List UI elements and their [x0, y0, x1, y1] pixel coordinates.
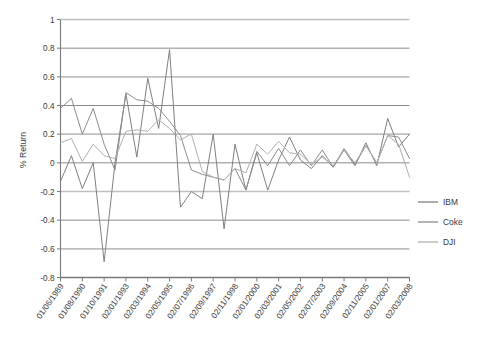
- y-tick-label: -0.4: [40, 216, 55, 225]
- y-tick-label: 1: [50, 16, 55, 25]
- chart-container: 10.80.60.40.20-0.2-0.4-0.6-0.8 01/06/198…: [0, 0, 491, 344]
- legend-label-dji: DJI: [443, 237, 456, 247]
- y-axis-title-text: % Return: [18, 132, 28, 168]
- y-tick-label: 0: [50, 159, 55, 168]
- chart-legend: IBMCokeDJI: [418, 197, 463, 247]
- x-axis: [61, 278, 410, 282]
- legend-label-coke: Coke: [443, 217, 463, 227]
- series-line-coke: [61, 93, 410, 190]
- y-tick-label: -0.8: [40, 274, 55, 283]
- y-tick-label: 0.2: [43, 130, 55, 139]
- grid-lines: [61, 20, 410, 278]
- y-tick-label: 0.6: [43, 73, 55, 82]
- y-tick-label: -0.6: [40, 245, 55, 254]
- series-line-ibm: [61, 50, 410, 262]
- y-axis: [57, 20, 61, 278]
- x-tick-labels: 01/06/198901/08/199001/10/199102/01/1993…: [35, 282, 415, 321]
- y-tick-labels: 10.80.60.40.20-0.2-0.4-0.6-0.8: [40, 16, 55, 283]
- line-chart: 10.80.60.40.20-0.2-0.4-0.6-0.8 01/06/198…: [0, 0, 491, 344]
- y-tick-label: 0.4: [43, 102, 55, 111]
- series-line-dji: [61, 120, 410, 180]
- y-tick-label: 0.8: [43, 44, 55, 53]
- data-series: [61, 50, 410, 262]
- y-axis-title: % Return: [18, 132, 28, 168]
- legend-label-ibm: IBM: [443, 197, 458, 207]
- y-tick-label: -0.2: [40, 188, 55, 197]
